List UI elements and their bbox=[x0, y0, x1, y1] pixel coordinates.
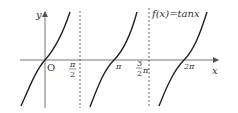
svg-text:π: π bbox=[142, 66, 149, 75]
function-label: f(x)=tanx bbox=[151, 8, 200, 19]
svg-text:2: 2 bbox=[137, 69, 142, 78]
svg-text:3: 3 bbox=[137, 59, 142, 68]
tick-3-over-2-pi: 3 2 π bbox=[136, 59, 149, 78]
svg-text:π: π bbox=[69, 60, 76, 69]
x-axis-label: x bbox=[212, 65, 218, 76]
tan-branch-3 bbox=[159, 12, 207, 106]
tick-pi: π bbox=[115, 62, 122, 71]
y-axis-label: y bbox=[35, 9, 42, 20]
tick-2pi: 2π bbox=[183, 62, 195, 71]
tick-pi-over-2: π 2 bbox=[69, 60, 76, 79]
origin-label: O bbox=[47, 62, 55, 73]
svg-text:2: 2 bbox=[70, 70, 75, 79]
tan-graph: y x O π 2 π 3 2 π 2π f(x)=tanx bbox=[0, 0, 238, 113]
